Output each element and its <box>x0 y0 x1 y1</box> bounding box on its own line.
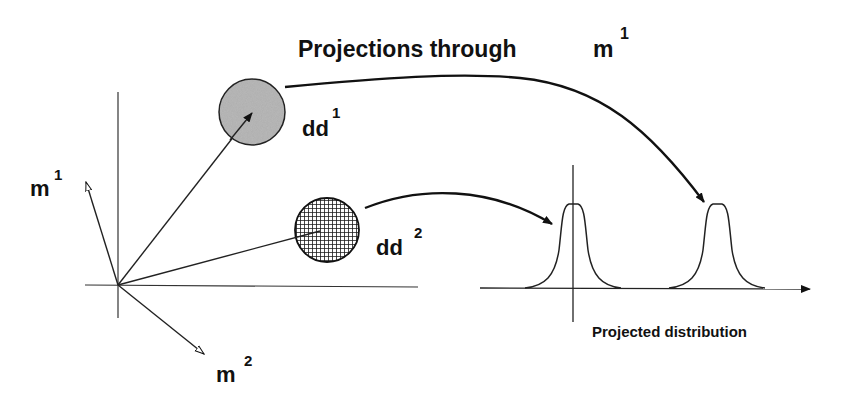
projection-arrows <box>285 76 704 224</box>
horizontal-axis <box>85 285 418 287</box>
dd2-label: dd <box>376 235 403 260</box>
dd1-label: dd <box>302 116 329 141</box>
title-symbol: m <box>593 36 613 62</box>
projection-arrow-dd2 <box>365 193 552 224</box>
peak-dd1 <box>669 204 765 288</box>
projection-arrow-dd1 <box>285 76 704 202</box>
dd1-distribution <box>219 79 285 145</box>
dd2-superscript: 2 <box>414 224 422 241</box>
projected-distribution-label: Projected distribution <box>592 323 747 340</box>
title-label: Projections through <box>298 36 517 62</box>
dd2-distribution <box>118 198 359 285</box>
dd1-circle <box>219 79 285 145</box>
projection-axes <box>480 165 810 322</box>
m1-superscript: 1 <box>54 166 62 183</box>
projection-diagram: Projections through m 1 m 1 m 2 dd 1 dd … <box>0 0 843 402</box>
m2-label: m <box>216 362 236 387</box>
dd2-circle <box>295 198 359 262</box>
m2-superscript: 2 <box>244 352 252 369</box>
dd2-vector <box>118 231 320 285</box>
projection-horizontal-axis <box>480 288 810 289</box>
m1-vector <box>86 182 118 285</box>
vectors <box>86 113 252 354</box>
dd1-superscript: 1 <box>332 104 340 121</box>
projected-peaks <box>525 204 765 288</box>
title-superscript: 1 <box>620 25 629 42</box>
m2-vector <box>118 285 204 354</box>
m1-label: m <box>30 176 50 201</box>
